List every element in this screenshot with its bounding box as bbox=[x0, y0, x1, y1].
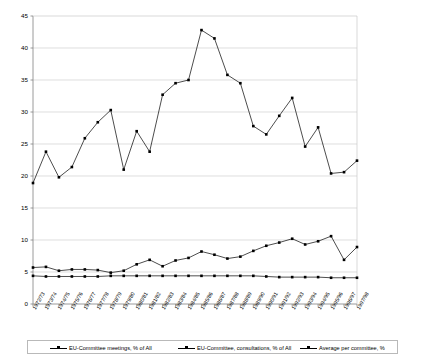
chart-legend: EU-Committee meetings, % of AllEU-Commit… bbox=[27, 340, 398, 354]
data-point-marker bbox=[161, 265, 164, 268]
data-point-marker bbox=[148, 259, 151, 262]
data-point-marker bbox=[71, 166, 74, 169]
data-point-marker bbox=[291, 97, 294, 100]
data-point-marker bbox=[343, 259, 346, 262]
data-point-marker bbox=[213, 37, 216, 40]
data-point-marker bbox=[343, 276, 346, 279]
data-point-marker bbox=[252, 250, 255, 253]
data-point-marker bbox=[58, 269, 61, 272]
data-point-marker bbox=[265, 244, 268, 247]
axis-lines bbox=[33, 16, 357, 304]
data-series bbox=[32, 29, 359, 185]
data-point-marker bbox=[330, 276, 333, 279]
series-line bbox=[33, 30, 357, 183]
legend-item[interactable]: EU-Committee meetings, % of All bbox=[50, 343, 152, 353]
data-point-marker bbox=[356, 276, 359, 279]
data-series bbox=[32, 275, 359, 280]
data-point-marker bbox=[45, 266, 48, 269]
data-point-marker bbox=[317, 240, 320, 243]
data-point-marker bbox=[122, 168, 125, 171]
legend-marker-icon bbox=[50, 345, 67, 352]
data-point-marker bbox=[239, 82, 242, 85]
data-point-marker bbox=[265, 275, 268, 278]
legend-item[interactable]: Average per committee, % bbox=[300, 343, 385, 353]
data-point-marker bbox=[187, 257, 190, 260]
data-point-marker bbox=[239, 255, 242, 258]
data-point-marker bbox=[122, 269, 125, 272]
data-point-marker bbox=[291, 237, 294, 240]
data-point-marker bbox=[330, 235, 333, 238]
chart-container: 051015202530354045 1972/731973/741974/75… bbox=[0, 0, 425, 364]
data-point-marker bbox=[343, 171, 346, 174]
data-point-marker bbox=[32, 275, 35, 278]
data-point-marker bbox=[58, 176, 61, 179]
legend-item-label: EU-Committee meetings, % of All bbox=[69, 345, 152, 351]
data-point-marker bbox=[135, 130, 138, 133]
data-point-marker bbox=[356, 246, 359, 249]
data-point-marker bbox=[200, 275, 203, 278]
data-series-group bbox=[32, 29, 359, 279]
data-point-marker bbox=[200, 29, 203, 32]
data-point-marker bbox=[317, 276, 320, 279]
data-point-marker bbox=[304, 145, 307, 148]
data-point-marker bbox=[304, 276, 307, 279]
legend-marker-icon bbox=[300, 345, 317, 352]
data-point-marker bbox=[32, 182, 35, 185]
data-point-marker bbox=[58, 275, 61, 278]
data-point-marker bbox=[252, 125, 255, 128]
data-point-marker bbox=[356, 159, 359, 162]
data-point-marker bbox=[84, 268, 87, 271]
data-point-marker bbox=[45, 150, 48, 153]
data-point-marker bbox=[135, 263, 138, 266]
data-point-marker bbox=[97, 275, 100, 278]
data-point-marker bbox=[84, 275, 87, 278]
data-point-marker bbox=[174, 275, 177, 278]
data-point-marker bbox=[226, 74, 229, 77]
data-point-marker bbox=[71, 275, 74, 278]
data-point-marker bbox=[174, 82, 177, 85]
data-point-marker bbox=[239, 275, 242, 278]
data-point-marker bbox=[84, 137, 87, 140]
data-point-marker bbox=[161, 275, 164, 278]
data-point-marker bbox=[122, 275, 125, 278]
data-series bbox=[32, 235, 359, 274]
data-point-marker bbox=[97, 121, 100, 124]
series-line bbox=[33, 236, 357, 272]
data-point-marker bbox=[187, 79, 190, 82]
series-line bbox=[33, 276, 357, 278]
data-point-marker bbox=[71, 268, 74, 271]
data-point-marker bbox=[291, 276, 294, 279]
data-point-marker bbox=[148, 150, 151, 153]
data-point-marker bbox=[109, 275, 112, 278]
data-point-marker bbox=[278, 241, 281, 244]
data-point-marker bbox=[278, 276, 281, 279]
legend-item-label: EU-Committee, consultations, % of All bbox=[197, 345, 291, 351]
legend-item[interactable]: EU-Committee, consultations, % of All bbox=[178, 343, 291, 353]
data-point-marker bbox=[32, 266, 35, 269]
data-point-marker bbox=[109, 271, 112, 274]
legend-item-label: Average per committee, % bbox=[319, 345, 385, 351]
data-point-marker bbox=[97, 269, 100, 272]
data-point-marker bbox=[226, 257, 229, 260]
data-point-marker bbox=[174, 259, 177, 262]
data-point-marker bbox=[278, 115, 281, 118]
data-point-marker bbox=[213, 253, 216, 256]
data-point-marker bbox=[304, 243, 307, 246]
data-point-marker bbox=[265, 133, 268, 136]
data-point-marker bbox=[252, 275, 255, 278]
data-point-marker bbox=[330, 172, 333, 175]
data-point-marker bbox=[200, 250, 203, 253]
data-point-marker bbox=[161, 93, 164, 96]
data-point-marker bbox=[213, 275, 216, 278]
data-point-marker bbox=[148, 275, 151, 278]
data-point-marker bbox=[226, 275, 229, 278]
data-point-marker bbox=[45, 275, 48, 278]
data-point-marker bbox=[317, 126, 320, 129]
data-point-marker bbox=[135, 275, 138, 278]
data-point-marker bbox=[187, 275, 190, 278]
legend-marker-icon bbox=[178, 345, 195, 352]
data-point-marker bbox=[109, 109, 112, 112]
